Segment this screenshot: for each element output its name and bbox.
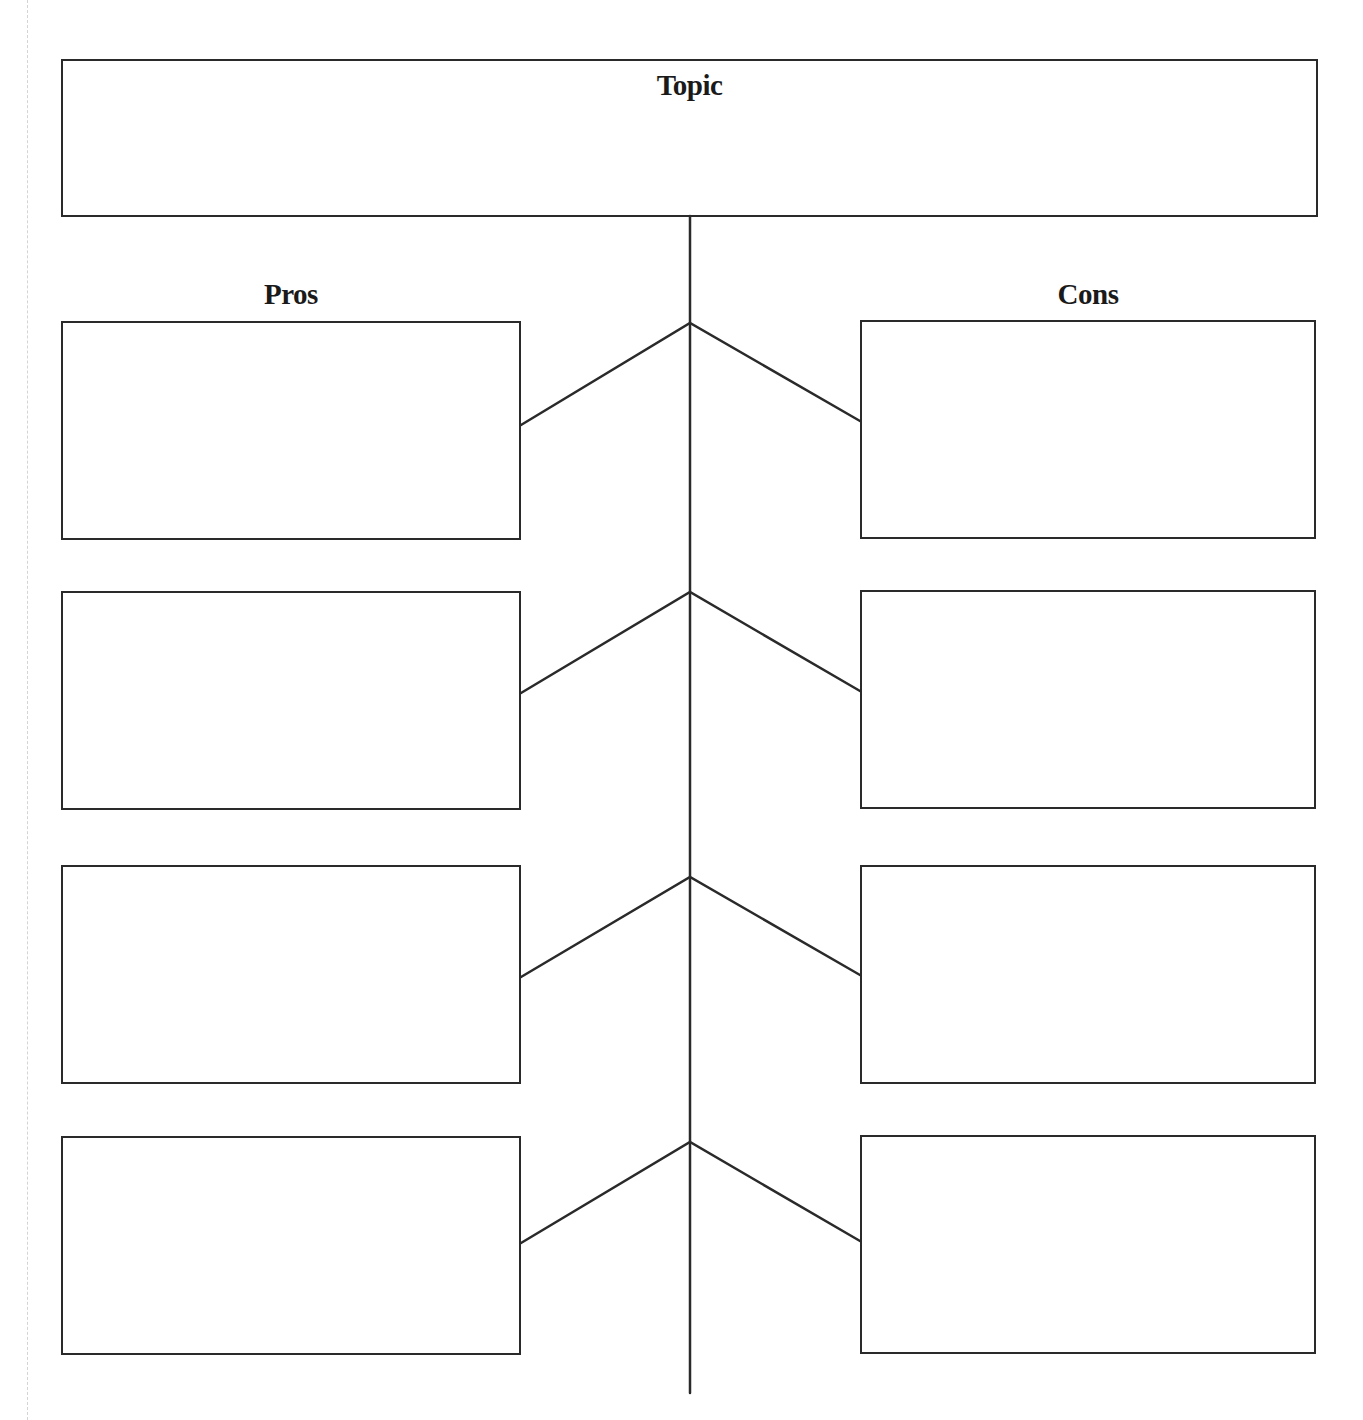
pro-box-1[interactable] <box>61 321 521 540</box>
con-box-1[interactable] <box>860 320 1316 539</box>
pro-box-4[interactable] <box>61 1136 521 1355</box>
pro-box-3[interactable] <box>61 865 521 1084</box>
pro-box-2[interactable] <box>61 591 521 810</box>
con-box-4[interactable] <box>860 1135 1316 1354</box>
cons-heading: Cons <box>860 278 1316 311</box>
pros-heading: Pros <box>61 278 521 311</box>
topic-label: Topic <box>63 69 1316 102</box>
topic-box[interactable]: Topic <box>61 59 1318 217</box>
con-box-3[interactable] <box>860 865 1316 1084</box>
con-box-2[interactable] <box>860 590 1316 809</box>
